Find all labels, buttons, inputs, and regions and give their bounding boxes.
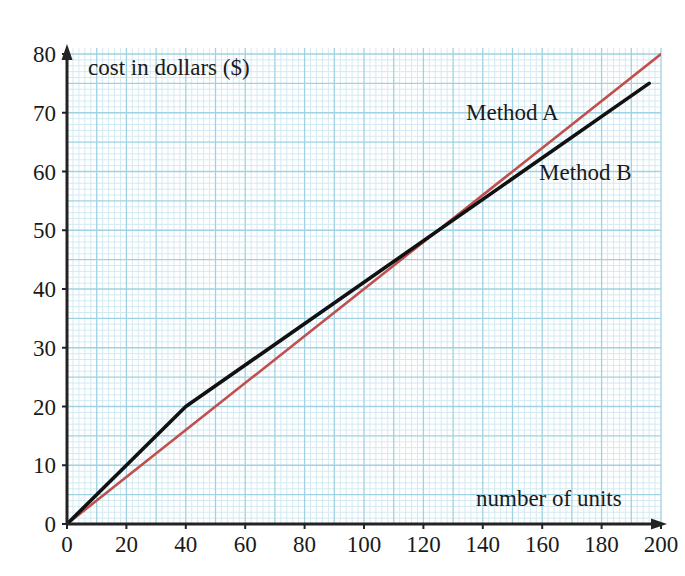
x-tick-label-60: 60 (234, 533, 257, 556)
y-tick-label-80: 80 (8, 43, 56, 66)
y-tick-label-30: 30 (8, 336, 56, 359)
x-tick-label-180: 180 (584, 533, 619, 556)
y-tick-label-20: 20 (8, 395, 56, 418)
series-label-method-b: Method B (539, 161, 632, 184)
y-tick-label-50: 50 (8, 219, 56, 242)
x-tick-label-160: 160 (525, 533, 560, 556)
x-tick-label-100: 100 (347, 533, 382, 556)
series-label-method-a: Method A (466, 101, 559, 124)
x-tick-label-200: 200 (644, 533, 679, 556)
x-tick-label-80: 80 (293, 533, 316, 556)
x-tick-label-120: 120 (406, 533, 441, 556)
x-tick-label-140: 140 (466, 533, 501, 556)
x-tick-label-0: 0 (61, 533, 73, 556)
x-tick-label-40: 40 (174, 533, 197, 556)
x-axis-title: number of units (476, 487, 622, 510)
y-tick-label-70: 70 (8, 101, 56, 124)
chart-figure: 01020304050607080 0204060801001201401601… (0, 0, 685, 576)
y-tick-label-60: 60 (8, 160, 56, 183)
y-axis-title: cost in dollars ($) (88, 56, 250, 79)
y-tick-label-10: 10 (8, 454, 56, 477)
y-tick-label-40: 40 (8, 278, 56, 301)
y-tick-label-0: 0 (8, 513, 56, 536)
x-tick-label-20: 20 (115, 533, 138, 556)
